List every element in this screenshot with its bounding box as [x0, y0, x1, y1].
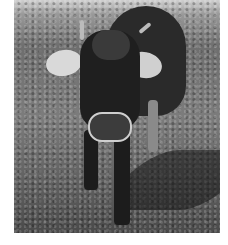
cow-front-leg-right — [114, 130, 130, 225]
cow-hind-leg — [148, 100, 158, 152]
cow-photo — [14, 0, 220, 233]
cow-horn-left — [80, 20, 84, 40]
cow-muzzle — [88, 112, 132, 142]
cow-forelock — [92, 30, 130, 60]
